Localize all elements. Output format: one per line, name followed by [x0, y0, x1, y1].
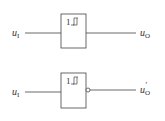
gate-symbol-text-bottom: 1	[66, 76, 71, 86]
gate-symbol-text-top: 1	[66, 17, 71, 27]
gate-schmitt-inverter: uI 1 uO′	[12, 73, 150, 108]
input-label-bottom: uI	[12, 86, 20, 99]
gate-box-top	[61, 14, 86, 48]
hysteresis-icon	[71, 18, 78, 25]
gate-schmitt-buffer: uI 1 uO	[12, 14, 150, 48]
input-label-top: uI	[12, 27, 20, 40]
hysteresis-icon	[71, 77, 78, 84]
schmitt-trigger-diagram: uI 1 uO uI 1 uO′	[0, 0, 165, 121]
output-label-top: uO	[140, 27, 150, 40]
gate-box-bottom	[61, 73, 86, 108]
output-label-bottom: uO′	[140, 81, 150, 97]
inversion-bubble-icon	[86, 88, 90, 92]
